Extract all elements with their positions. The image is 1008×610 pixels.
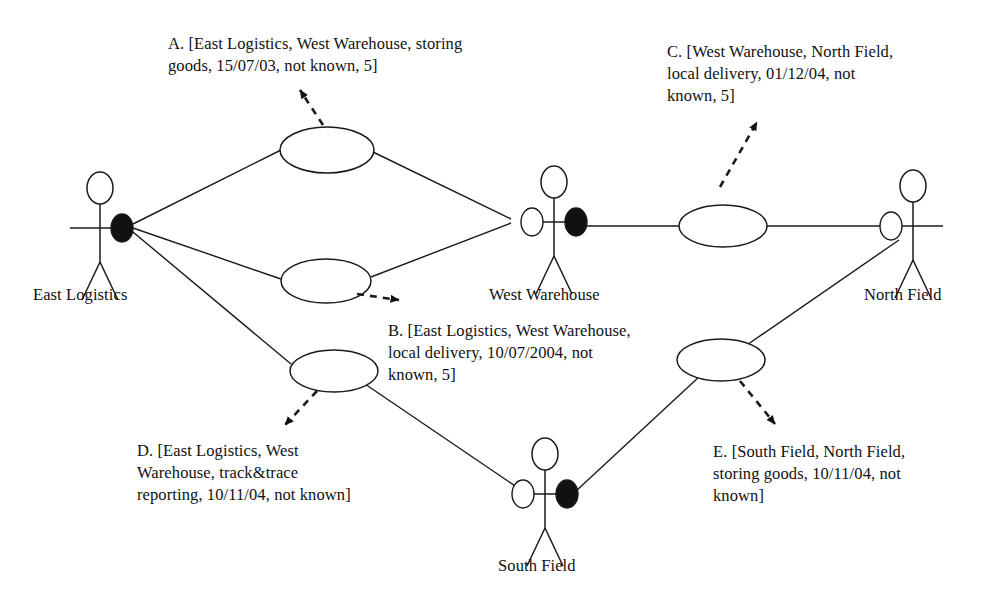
role-marker-hollow-left: [521, 208, 543, 236]
use-case-ellipse-b[interactable]: [281, 259, 371, 303]
association-line: [576, 376, 700, 491]
association-line: [373, 152, 511, 219]
actor-head: [541, 166, 567, 198]
actor-label-north-field: North Field: [864, 285, 942, 305]
use-case-ellipse-e[interactable]: [677, 339, 765, 381]
role-marker-hollow-left: [880, 212, 902, 240]
use-case-ellipse-c[interactable]: [679, 205, 767, 247]
role-marker-filled-right: [565, 208, 587, 236]
association-line: [133, 150, 281, 224]
role-marker-hollow-left: [512, 480, 534, 508]
association-line: [133, 232, 291, 364]
annotation-arrow-b: [357, 294, 399, 300]
actor-west-warehouse[interactable]: [521, 166, 587, 294]
role-marker-filled-right: [111, 214, 133, 242]
use-case-note-d: D. [East Logistics, West Warehouse, trac…: [137, 440, 427, 505]
actor-head: [532, 438, 558, 470]
annotation-arrow-c: [720, 122, 757, 187]
actor-east-logistics[interactable]: [70, 172, 133, 300]
use-case-note-c: C. [West Warehouse, North Field, local d…: [667, 41, 947, 106]
use-case-note-e: E. [South Field, North Field, storing go…: [713, 441, 983, 506]
annotation-arrow-e: [740, 381, 775, 424]
use-case-ellipse-a[interactable]: [280, 127, 374, 173]
actor-north-field[interactable]: [880, 170, 943, 298]
actor-label-south-field: South Field: [498, 556, 576, 576]
association-line: [133, 228, 281, 279]
annotation-arrow-d: [285, 391, 317, 425]
actor-label-west-warehouse: West Warehouse: [489, 285, 600, 305]
actor-head: [900, 170, 926, 202]
actor-south-field[interactable]: [512, 438, 578, 566]
use-case-note-b: B. [East Logistics, West Warehouse, loca…: [388, 320, 688, 385]
actor-label-east-logistics: East Logistics: [33, 285, 127, 305]
use-case-diagram-canvas: A. [East Logistics, West Warehouse, stor…: [0, 0, 1008, 610]
annotation-arrow-a: [300, 90, 323, 125]
actor-head: [87, 172, 113, 204]
use-case-ellipse-d[interactable]: [290, 350, 378, 392]
role-marker-filled-right: [556, 480, 578, 508]
use-case-note-a: A. [East Logistics, West Warehouse, stor…: [168, 33, 588, 77]
association-line: [371, 223, 511, 277]
